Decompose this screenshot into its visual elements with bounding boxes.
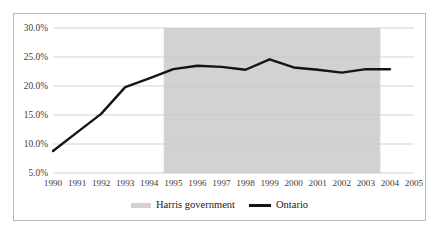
chart-legend: Harris government Ontario bbox=[14, 190, 425, 220]
legend-item-harris-government: Harris government bbox=[131, 200, 235, 211]
legend-item-ontario: Ontario bbox=[249, 200, 308, 211]
svg-text:1999: 1999 bbox=[260, 178, 279, 188]
legend-label-harris-government: Harris government bbox=[156, 200, 235, 211]
legend-line-swatch-icon bbox=[249, 204, 271, 207]
svg-text:1990: 1990 bbox=[44, 178, 63, 188]
svg-text:2001: 2001 bbox=[309, 178, 328, 188]
svg-text:10.0%: 10.0% bbox=[24, 139, 48, 149]
svg-text:25.0%: 25.0% bbox=[24, 52, 48, 62]
svg-text:5.0%: 5.0% bbox=[28, 168, 48, 178]
legend-band-swatch-icon bbox=[131, 203, 151, 208]
svg-text:1994: 1994 bbox=[140, 178, 159, 188]
line-chart: 5.0%10.0%15.0%20.0%25.0%30.0% 1990199119… bbox=[14, 14, 425, 189]
svg-text:1997: 1997 bbox=[212, 178, 231, 188]
svg-text:1992: 1992 bbox=[92, 178, 111, 188]
svg-text:1991: 1991 bbox=[68, 178, 87, 188]
plot-area: 5.0%10.0%15.0%20.0%25.0%30.0% 1990199119… bbox=[14, 14, 425, 189]
harris-government-shaded-band bbox=[164, 28, 381, 173]
svg-text:2004: 2004 bbox=[381, 178, 400, 188]
x-axis-tick-labels: 1990199119921993199419951996199719981999… bbox=[44, 178, 424, 188]
svg-text:2000: 2000 bbox=[284, 178, 303, 188]
svg-text:1998: 1998 bbox=[236, 178, 255, 188]
svg-text:15.0%: 15.0% bbox=[24, 110, 48, 120]
svg-text:20.0%: 20.0% bbox=[24, 81, 48, 91]
svg-text:1995: 1995 bbox=[164, 178, 183, 188]
svg-text:2003: 2003 bbox=[357, 178, 376, 188]
svg-text:1993: 1993 bbox=[116, 178, 135, 188]
legend-label-ontario: Ontario bbox=[276, 200, 308, 211]
svg-text:2002: 2002 bbox=[333, 178, 352, 188]
svg-text:30.0%: 30.0% bbox=[24, 23, 48, 33]
y-axis-tick-labels: 5.0%10.0%15.0%20.0%25.0%30.0% bbox=[24, 23, 48, 178]
svg-text:2005: 2005 bbox=[405, 178, 424, 188]
chart-figure: 5.0%10.0%15.0%20.0%25.0%30.0% 1990199119… bbox=[13, 13, 426, 221]
svg-text:1996: 1996 bbox=[188, 178, 207, 188]
